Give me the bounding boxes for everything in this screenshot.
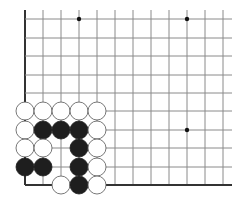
black-stone <box>70 158 88 176</box>
white-stone <box>16 121 34 139</box>
white-stone <box>52 102 70 120</box>
black-stone <box>16 158 34 176</box>
white-stone <box>88 121 106 139</box>
black-stone <box>52 121 70 139</box>
white-stone <box>16 139 34 157</box>
black-stone <box>34 121 52 139</box>
white-stone <box>88 102 106 120</box>
white-stone <box>52 176 70 194</box>
black-stone <box>70 139 88 157</box>
go-board[interactable] <box>0 0 249 205</box>
star-point <box>185 17 189 21</box>
black-stone <box>70 121 88 139</box>
grid-lines <box>25 10 232 185</box>
white-stone <box>88 176 106 194</box>
black-stone <box>34 158 52 176</box>
white-stone <box>88 139 106 157</box>
star-point <box>185 128 189 132</box>
black-stone <box>70 176 88 194</box>
white-stone <box>70 102 88 120</box>
white-stone <box>34 139 52 157</box>
white-stone <box>16 102 34 120</box>
white-stone <box>88 158 106 176</box>
white-stone <box>34 102 52 120</box>
star-point <box>77 17 81 21</box>
